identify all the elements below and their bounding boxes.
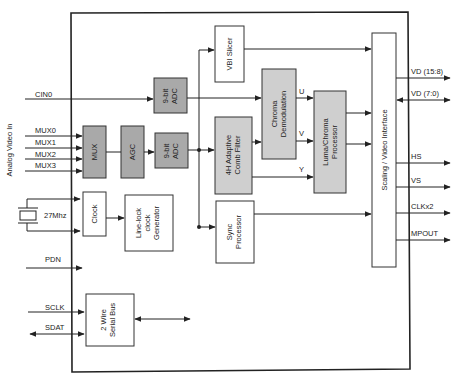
y-signal-label: Y [299, 165, 304, 174]
comb-label-2: Comb Filter [233, 135, 242, 174]
mux1-label: MUX1 [35, 138, 56, 147]
analog-video-in-label: Analog Video In [5, 124, 14, 177]
mux0-label: MUX0 [35, 126, 56, 135]
v-signal-label: V [299, 129, 304, 138]
u-signal-label: U [299, 87, 304, 96]
mux2-label: MUX2 [35, 150, 56, 159]
mux-label: MUX [90, 144, 99, 161]
chroma-label-2: Demodulation [279, 91, 288, 137]
adc-top-label-1: 9-bit [161, 88, 170, 104]
vs-label: VS [411, 176, 421, 185]
clock-label: Clock [90, 204, 99, 223]
crystal-label: 27Mhz [44, 211, 67, 220]
agc-label: AGC [128, 143, 137, 160]
luma-label-1: Luma/Chroma [321, 117, 330, 165]
video-decoder-block-diagram: Analog Video In CIN0 MUX0 MUX1 MUX2 MUX3… [0, 0, 455, 379]
vd-15-8-label: VD (15:8) [411, 67, 444, 76]
mux3-label: MUX3 [35, 161, 56, 170]
mpout-label: MPOUT [411, 229, 439, 238]
adc-bottom-label-2: ADC [171, 143, 180, 159]
linelock-label-3: Generator [152, 206, 161, 240]
hs-label: HS [411, 152, 421, 161]
linelock-label-2: clock [143, 214, 152, 231]
sclk-label: SCLK [45, 303, 65, 312]
adc-bottom-label-1: 9-bit [162, 143, 171, 159]
serial-label-1: 2 Wire [99, 309, 108, 331]
cin0-label: CIN0 [35, 90, 52, 99]
luma-label-2: Processor [330, 125, 339, 159]
vbi-slicer-label: VBI Slicer [225, 37, 234, 70]
sync-label-1: Sync [225, 223, 234, 240]
vd-7-0-label: VD (7:0) [411, 89, 439, 98]
scaling-label: Scaling / Video Interface [380, 109, 389, 190]
clkx2-label: CLKx2 [411, 202, 434, 211]
serial-label-2: Serial Bus [108, 303, 117, 337]
linelock-label-1: Line-lock [134, 208, 143, 238]
adc-top-label-2: ADC [170, 88, 179, 104]
chroma-label-1: Chroma [270, 100, 279, 128]
sdat-label: SDAT [45, 323, 65, 332]
pdn-label: PDN [45, 255, 61, 264]
sync-label-2: Processor [234, 215, 243, 249]
comb-label-1: 4H Adaptive [224, 135, 233, 175]
